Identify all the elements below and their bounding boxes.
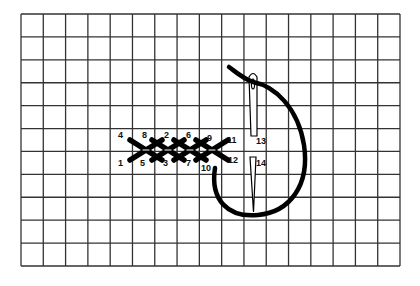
stitch-label: 11	[227, 135, 237, 145]
stitch-label: 14	[256, 158, 266, 168]
herringbone-stitches	[130, 140, 228, 160]
stitch-label: 1	[118, 158, 123, 168]
herringbone-stitch-diagram: 4826911153710121314	[0, 0, 420, 286]
stitch-label: 13	[256, 136, 266, 146]
stitch-label: 9	[207, 133, 212, 143]
stitch-label: 8	[142, 130, 147, 140]
stitch-label: 10	[201, 163, 211, 173]
stitch-label: 4	[118, 130, 123, 140]
stitch-label: 2	[164, 130, 169, 140]
stitch-label: 3	[163, 158, 168, 168]
stitch-label: 6	[186, 130, 191, 140]
stitch-label: 12	[228, 155, 238, 165]
stitch-label: 7	[186, 158, 191, 168]
stitch-label: 5	[140, 158, 145, 168]
